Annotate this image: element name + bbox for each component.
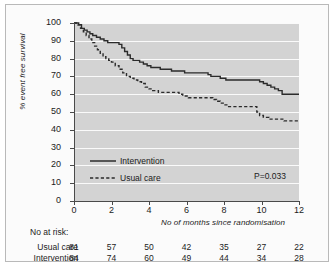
risk-cell: 81 bbox=[64, 242, 84, 252]
curve-usual-care bbox=[74, 23, 299, 121]
y-tick-label: 50 bbox=[39, 106, 61, 116]
y-axis-line bbox=[74, 23, 75, 202]
x-tick-label: 12 bbox=[289, 205, 309, 215]
risk-cell: 34 bbox=[252, 253, 272, 263]
x-axis-label: No of months since randomisation bbox=[161, 218, 285, 227]
x-axis-line bbox=[74, 201, 300, 202]
x-tick-label: 0 bbox=[64, 205, 84, 215]
risk-cell: 22 bbox=[289, 242, 309, 252]
risk-cell: 49 bbox=[177, 253, 197, 263]
legend-label: Intervention bbox=[120, 156, 164, 166]
x-tick-label: 4 bbox=[139, 205, 159, 215]
x-tick-label: 8 bbox=[214, 205, 234, 215]
pvalue-annotation: P=0.033 bbox=[254, 171, 286, 181]
y-axis-label: % event free survival bbox=[18, 12, 27, 132]
y-tick-label: 90 bbox=[39, 35, 61, 45]
y-tick-label: 0 bbox=[39, 195, 61, 205]
y-tick-label: 10 bbox=[39, 177, 61, 187]
y-tick-label: 80 bbox=[39, 53, 61, 63]
y-tick-label: 70 bbox=[39, 70, 61, 80]
x-tick-label: 10 bbox=[252, 205, 272, 215]
risk-cell: 60 bbox=[139, 253, 159, 263]
figure-panel: % event free survival 010203040506070809… bbox=[5, 4, 329, 262]
x-tick-label: 2 bbox=[102, 205, 122, 215]
y-tick-label: 20 bbox=[39, 159, 61, 169]
risk-table-title: No at risk: bbox=[30, 227, 68, 237]
y-tick-label: 60 bbox=[39, 88, 61, 98]
x-tick-label: 6 bbox=[177, 205, 197, 215]
risk-cell: 44 bbox=[214, 253, 234, 263]
risk-cell: 84 bbox=[64, 253, 84, 263]
risk-cell: 57 bbox=[102, 242, 122, 252]
risk-cell: 35 bbox=[214, 242, 234, 252]
risk-cell: 50 bbox=[139, 242, 159, 252]
y-tick-label: 30 bbox=[39, 142, 61, 152]
curve-intervention bbox=[74, 23, 299, 94]
y-tick-label: 40 bbox=[39, 124, 61, 134]
legend-label: Usual care bbox=[120, 173, 161, 183]
risk-cell: 74 bbox=[102, 253, 122, 263]
risk-cell: 27 bbox=[252, 242, 272, 252]
legend-line-sample bbox=[90, 157, 116, 164]
risk-cell: 28 bbox=[289, 253, 309, 263]
risk-cell: 42 bbox=[177, 242, 197, 252]
legend-line-sample bbox=[90, 174, 116, 181]
y-tick-label: 100 bbox=[39, 17, 61, 27]
